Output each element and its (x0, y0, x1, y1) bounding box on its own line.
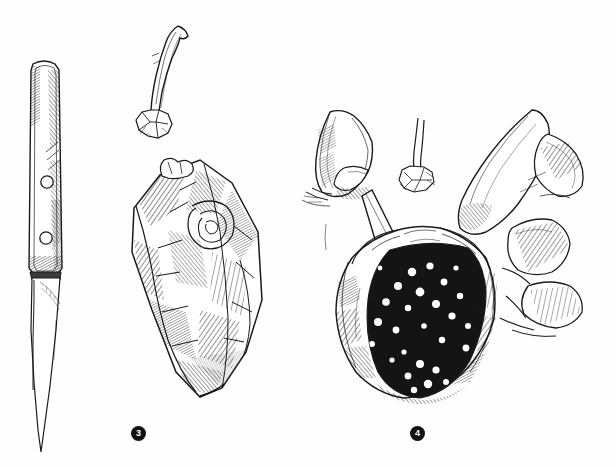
hands-scraping-seeds (302, 110, 583, 404)
illustration-page: 3 4 (0, 0, 616, 467)
figure-marker-3: 3 (131, 426, 146, 441)
split-pod (132, 158, 262, 397)
pod-stem-tip (160, 158, 193, 178)
small-detached-stem (399, 118, 435, 192)
figure-marker-4: 4 (410, 426, 425, 441)
open-pod (336, 226, 498, 404)
paring-knife (29, 61, 62, 452)
knife-handle (29, 61, 62, 280)
left-hand-holding-knife (302, 111, 373, 250)
stem-calyx (136, 110, 172, 138)
detached-stem (136, 26, 188, 138)
rivet-upper (41, 176, 53, 188)
illustration-canvas (0, 0, 616, 467)
rivet-lower (40, 232, 52, 244)
knife-blade (31, 278, 60, 452)
